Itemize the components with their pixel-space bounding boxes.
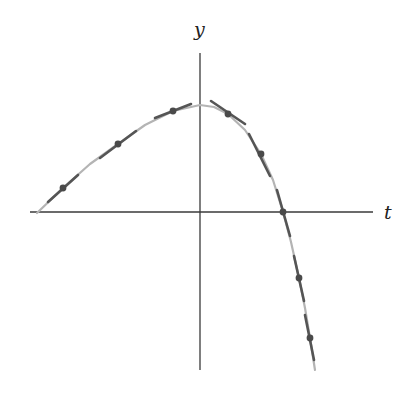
sample-point — [307, 335, 314, 342]
sample-point — [225, 111, 232, 118]
sample-point — [115, 141, 122, 148]
solution-curve — [37, 105, 315, 370]
solution-curve-diagram — [0, 0, 410, 395]
t-axis-label: t — [384, 203, 392, 222]
sample-point — [280, 209, 287, 216]
tangent-segments — [48, 101, 314, 360]
sample-point — [170, 108, 177, 115]
sample-points — [60, 108, 314, 342]
sample-point — [296, 275, 303, 282]
sample-point — [60, 185, 67, 192]
y-axis-label: y — [194, 20, 205, 39]
sample-point — [258, 151, 265, 158]
